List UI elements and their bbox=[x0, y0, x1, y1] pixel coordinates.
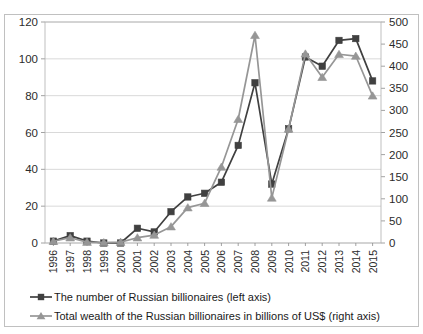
legend-label: Total wealth of the Russian billionaires… bbox=[54, 310, 380, 322]
legend-label: The number of Russian billionaires (left… bbox=[54, 291, 271, 303]
data-point-marker bbox=[319, 63, 325, 69]
x-axis-tick-label: 2010 bbox=[283, 250, 295, 274]
x-axis-tick-label: 2012 bbox=[316, 250, 328, 274]
x-axis-tick-label: 2006 bbox=[215, 250, 227, 274]
x-axis-tick-label: 1997 bbox=[64, 250, 76, 274]
series-2-total-wealth bbox=[49, 31, 377, 246]
x-axis-tick-label: 2003 bbox=[165, 250, 177, 274]
data-point-marker bbox=[218, 179, 224, 185]
x-axis-tick-label: 2011 bbox=[299, 250, 311, 273]
data-point-marker bbox=[217, 163, 226, 170]
data-point-marker bbox=[336, 37, 342, 43]
right-axis-tick-label: 300 bbox=[389, 104, 408, 116]
data-point-marker bbox=[201, 190, 207, 196]
right-axis-tick-label: 500 bbox=[389, 16, 408, 28]
left-axis-tick-label: 20 bbox=[25, 200, 38, 212]
x-axis-tick-label: 2007 bbox=[232, 250, 244, 274]
x-axis-tick-label: 2001 bbox=[131, 250, 143, 274]
x-axis-tick-label: 2009 bbox=[266, 250, 278, 274]
data-point-marker bbox=[185, 194, 191, 200]
x-axis-tick-label: 2004 bbox=[182, 250, 194, 274]
right-axis-tick-label: 200 bbox=[389, 149, 408, 161]
x-axis-tick-label: 1999 bbox=[98, 250, 110, 274]
series-1-billionaire-count bbox=[50, 35, 376, 246]
x-axis-tick-label: 2015 bbox=[367, 250, 379, 274]
right-axis-tick-label: 250 bbox=[389, 127, 408, 139]
x-axis-tick-label: 1996 bbox=[47, 250, 59, 274]
left-axis-tick-label: 100 bbox=[19, 53, 38, 65]
data-point-marker bbox=[267, 194, 276, 201]
left-axis-tick-label: 120 bbox=[19, 16, 38, 28]
right-axis-tick-label: 350 bbox=[389, 82, 408, 94]
data-point-marker bbox=[369, 78, 375, 84]
data-point-marker bbox=[252, 80, 258, 86]
left-axis-tick-label: 40 bbox=[25, 163, 38, 175]
x-axis-tick-label: 2002 bbox=[148, 250, 160, 274]
data-point-marker bbox=[134, 225, 140, 231]
chart-outer-border bbox=[5, 15, 419, 327]
x-axis-tick-label: 2013 bbox=[333, 250, 345, 274]
data-point-marker bbox=[301, 50, 310, 57]
right-axis-tick-label: 100 bbox=[389, 193, 408, 205]
right-axis-tick-label: 50 bbox=[389, 215, 402, 227]
data-point-marker bbox=[168, 208, 174, 214]
right-axis-tick-label: 450 bbox=[389, 38, 408, 50]
right-axis-tick-label: 150 bbox=[389, 171, 408, 183]
chart-container: 0204060801001200501001502002503003504004… bbox=[0, 0, 423, 334]
data-point-marker bbox=[353, 35, 359, 41]
x-axis-tick-label: 1998 bbox=[81, 250, 93, 274]
data-point-marker bbox=[200, 199, 209, 206]
x-axis-tick-label: 2000 bbox=[115, 250, 127, 274]
right-axis-tick-label: 0 bbox=[389, 237, 395, 249]
data-point-marker bbox=[235, 142, 241, 148]
left-axis-tick-label: 0 bbox=[32, 237, 38, 249]
legend-square-marker-icon bbox=[38, 294, 44, 300]
right-axis-tick-label: 400 bbox=[389, 60, 408, 72]
data-point-marker bbox=[251, 31, 260, 38]
billionaires-line-chart: 0204060801001200501001502002503003504004… bbox=[0, 0, 423, 334]
legend-item-1[interactable]: The number of Russian billionaires (left… bbox=[30, 291, 271, 303]
left-axis-tick-label: 80 bbox=[25, 90, 38, 102]
x-axis-tick-label: 2008 bbox=[249, 250, 261, 274]
x-axis-tick-label: 2005 bbox=[199, 250, 211, 274]
x-axis-tick-label: 2014 bbox=[350, 250, 362, 274]
legend-item-2[interactable]: Total wealth of the Russian billionaires… bbox=[30, 310, 380, 322]
data-point-marker bbox=[234, 115, 243, 122]
left-axis-tick-label: 60 bbox=[25, 127, 38, 139]
